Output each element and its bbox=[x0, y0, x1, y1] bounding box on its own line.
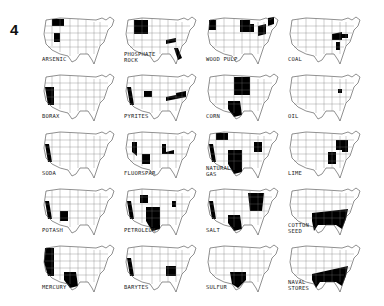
map-panel-natural-gas: NATURAL GAS bbox=[204, 128, 284, 184]
map-panel-soda: SODA bbox=[40, 128, 120, 184]
map-label: PHOSPHATE ROCK bbox=[124, 51, 156, 63]
map-panel-mercury: MERCURY bbox=[40, 242, 120, 298]
map-label: NAVAL STORES bbox=[288, 279, 309, 291]
map-panel-borax: BORAX bbox=[40, 71, 120, 127]
map-label: OIL bbox=[288, 113, 299, 119]
map-panel-petroleum: PETROLEUM bbox=[122, 185, 202, 241]
map-panel-corn: CORN bbox=[204, 71, 284, 127]
map-panel-wood-pulp: WOOD PULP bbox=[204, 14, 284, 70]
map-label: BARYTES bbox=[124, 284, 149, 290]
map-label: SODA bbox=[42, 170, 56, 176]
map-panel-cotton-seed: COTTON SEED bbox=[286, 185, 366, 241]
map-panel-lime: LIME bbox=[286, 128, 366, 184]
map-label: LIME bbox=[288, 170, 302, 176]
map-label: NATURAL GAS bbox=[206, 165, 231, 177]
map-panel-coal: COAL bbox=[286, 14, 366, 70]
map-label: WOOD PULP bbox=[206, 56, 238, 62]
map-label: BORAX bbox=[42, 113, 60, 119]
map-panel-arsenic: ARSENIC bbox=[40, 14, 120, 70]
map-label: SULFUR bbox=[206, 284, 227, 290]
map-label: POTASH bbox=[42, 227, 63, 233]
map-panel-salt: SALT bbox=[204, 185, 284, 241]
map-label: COTTON SEED bbox=[288, 222, 309, 234]
map-panel-sulfur: SULFUR bbox=[204, 242, 284, 298]
map-panel-naval-stores: NAVAL STORES bbox=[286, 242, 366, 298]
map-label: FLUORSPAR bbox=[124, 170, 156, 176]
map-panel-pyrites: PYRITES bbox=[122, 71, 202, 127]
map-label: ARSENIC bbox=[42, 56, 67, 62]
map-label: PYRITES bbox=[124, 113, 149, 119]
map-panel-potash: POTASH bbox=[40, 185, 120, 241]
map-panel-fluorspar: FLUORSPAR bbox=[122, 128, 202, 184]
map-panel-barytes: BARYTES bbox=[122, 242, 202, 298]
map-panel-oil: OIL bbox=[286, 71, 366, 127]
map-label: SALT bbox=[206, 227, 220, 233]
map-label: COAL bbox=[288, 56, 302, 62]
figure-number: 4 bbox=[10, 21, 18, 38]
map-label: PETROLEUM bbox=[124, 227, 156, 233]
map-grid: ARSENICPHOSPHATE ROCKWOOD PULPCOALBORAXP… bbox=[40, 14, 380, 304]
map-label: MERCURY bbox=[42, 284, 67, 290]
map-panel-phosphate-rock: PHOSPHATE ROCK bbox=[122, 14, 202, 70]
map-label: CORN bbox=[206, 113, 220, 119]
